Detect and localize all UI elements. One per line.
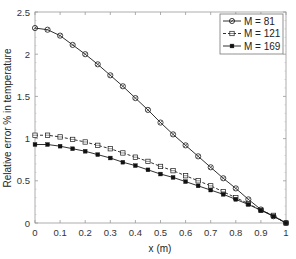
y-tick-label: 1.5 bbox=[17, 91, 30, 102]
data-point bbox=[96, 153, 100, 157]
data-point bbox=[146, 168, 150, 172]
legend: M = 81M = 121M = 169 bbox=[220, 14, 283, 54]
chart: 00.511.522.5 00.10.20.30.40.50.60.70.80.… bbox=[0, 0, 296, 259]
x-tick-label: 0.8 bbox=[229, 227, 242, 238]
x-tick-label: 0.1 bbox=[53, 227, 66, 238]
legend-label: M = 81 bbox=[244, 16, 275, 27]
data-point bbox=[108, 156, 112, 160]
data-point bbox=[58, 144, 62, 148]
data-point bbox=[221, 192, 225, 196]
y-tick-label: 0 bbox=[25, 218, 30, 229]
x-tick-label: 0.9 bbox=[254, 227, 267, 238]
x-tick-label: 0.5 bbox=[154, 227, 167, 238]
data-point bbox=[184, 180, 188, 184]
data-point bbox=[71, 147, 75, 151]
x-tick-label: 1 bbox=[283, 227, 288, 238]
data-point bbox=[171, 176, 175, 180]
legend-marker bbox=[230, 44, 234, 48]
data-point bbox=[259, 208, 263, 212]
data-point bbox=[234, 197, 238, 201]
data-point bbox=[83, 149, 87, 153]
data-point bbox=[46, 143, 50, 147]
legend-label: M = 169 bbox=[244, 41, 281, 52]
x-tick-label: 0.6 bbox=[179, 227, 192, 238]
data-point bbox=[209, 188, 213, 192]
data-point bbox=[121, 160, 125, 164]
data-point bbox=[33, 143, 37, 147]
y-tick-label: 0.5 bbox=[17, 175, 30, 186]
data-point bbox=[159, 172, 163, 176]
y-tick-label: 2.5 bbox=[17, 7, 30, 18]
y-tick-label: 2 bbox=[25, 49, 30, 60]
x-tick-label: 0.7 bbox=[204, 227, 217, 238]
y-tick-label: 1 bbox=[25, 133, 30, 144]
x-tick-label: 0.3 bbox=[104, 227, 117, 238]
data-point bbox=[134, 164, 138, 168]
y-axis-label: Relative error % in temperature bbox=[2, 48, 13, 187]
data-point bbox=[246, 203, 250, 207]
data-point bbox=[272, 214, 276, 218]
data-point bbox=[284, 221, 288, 225]
x-tick-label: 0 bbox=[32, 227, 37, 238]
legend-label: M = 121 bbox=[244, 28, 281, 39]
x-axis-label: x (m) bbox=[149, 243, 172, 254]
data-point bbox=[196, 184, 200, 188]
x-tick-label: 0.2 bbox=[79, 227, 92, 238]
x-tick-label: 0.4 bbox=[129, 227, 142, 238]
